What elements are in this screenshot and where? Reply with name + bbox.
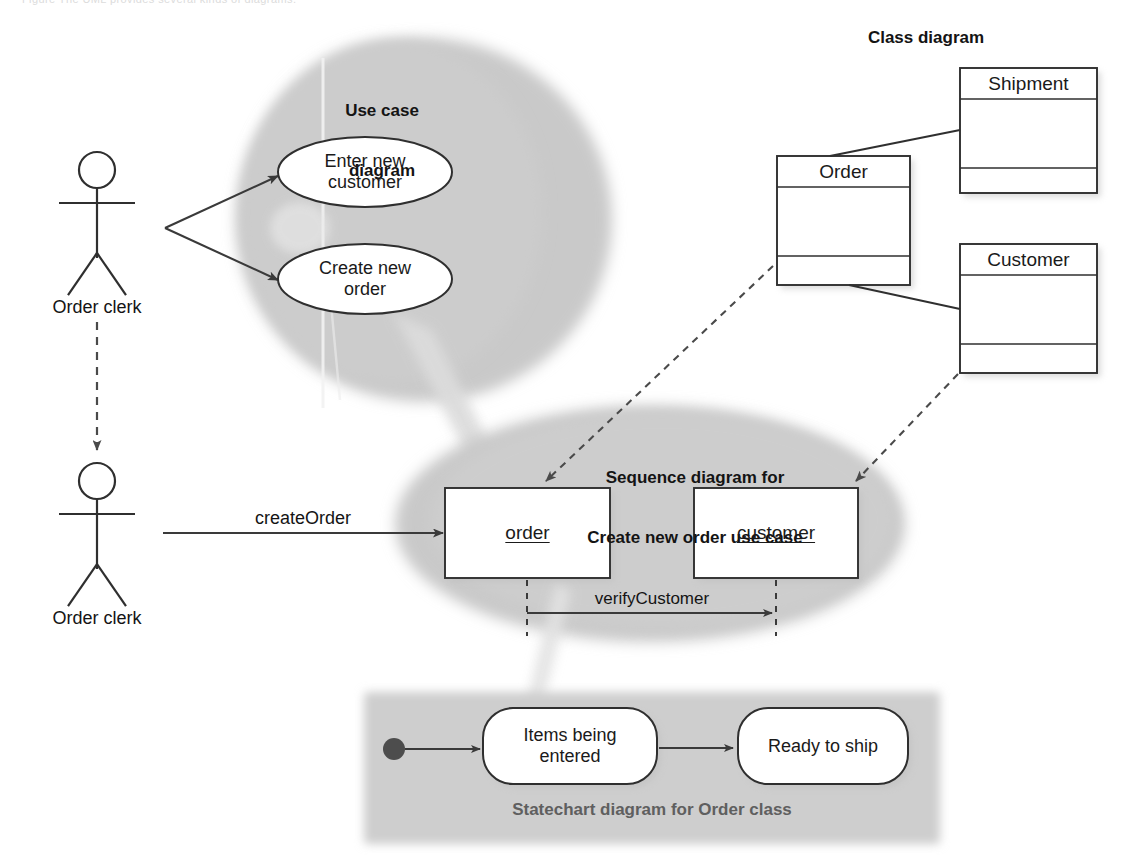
sequence-diagram-title: Sequence diagram for Create new order us… (530, 428, 860, 588)
message-verify-customer-label: verifyCustomer (545, 589, 759, 609)
use-case-diagram-title-line1: Use case (312, 101, 452, 121)
state-ready-to-ship (738, 708, 912, 788)
link-customer-class-to-customer-object (856, 374, 958, 481)
actor-order-clerk-seq-label: Order clerk (27, 608, 167, 629)
actor-order-clerk-uc (59, 152, 135, 295)
class-shipment (960, 68, 1101, 197)
sequence-diagram-title-line1: Sequence diagram for (530, 468, 860, 488)
class-customer (960, 244, 1101, 377)
state-items-being-entered (483, 708, 661, 788)
sequence-diagram-title-line2: Create new order use case (530, 528, 860, 548)
state-initial (383, 738, 405, 760)
class-association-order-shipment (830, 130, 960, 156)
use-case-diagram-title-line2: diagram (312, 161, 452, 181)
class-diagram-title: Class diagram (806, 28, 1046, 48)
actor-order-clerk-seq (59, 463, 135, 606)
actor-order-clerk-uc-label: Order clerk (27, 297, 167, 318)
class-order (777, 156, 914, 289)
use-case-diagram-title: Use case diagram (312, 61, 452, 221)
uml-overview-figure: Figure The UML provides several kinds of… (0, 0, 1127, 868)
statechart-diagram-title: Statechart diagram for Order class (390, 800, 914, 820)
message-create-order-label: createOrder (196, 508, 410, 529)
